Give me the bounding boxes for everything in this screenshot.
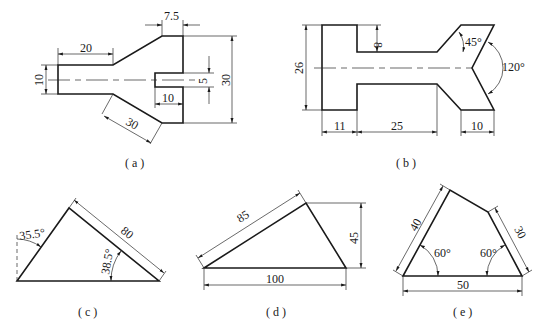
dim-a-slot-depth: 10 bbox=[162, 91, 174, 105]
engineering-drawing-sheet: 7.5 20 10 5 30 10 30 ( a ) bbox=[0, 0, 548, 335]
dim-b-chamfer-angle: 45° bbox=[465, 35, 482, 49]
dim-c-hypotenuse: 80 bbox=[118, 223, 136, 241]
dim-d-base: 100 bbox=[266, 272, 284, 286]
dim-a-slant-length: 30 bbox=[124, 114, 141, 132]
figure-c: 35.5° 80 38.5° ( c ) bbox=[17, 198, 166, 319]
dim-e-right-angle: 60° bbox=[480, 246, 497, 260]
caption-a: ( a ) bbox=[125, 156, 144, 170]
figure-a-outline bbox=[58, 36, 183, 123]
dim-e-right-side: 30 bbox=[511, 224, 529, 241]
dim-e-left-side: 40 bbox=[406, 216, 424, 233]
dim-b-vee-angle: 120° bbox=[502, 60, 525, 74]
dim-a-slot-height: 5 bbox=[196, 78, 210, 84]
dim-e-left-angle: 60° bbox=[434, 246, 451, 260]
caption-d: ( d ) bbox=[266, 305, 286, 319]
dim-b-notch-depth: 8 bbox=[371, 42, 385, 48]
dim-d-slant-side: 85 bbox=[234, 207, 252, 225]
caption-e: ( e ) bbox=[453, 305, 472, 319]
figure-a: 7.5 20 10 5 30 10 30 ( a ) bbox=[32, 9, 237, 170]
figure-d-outline bbox=[204, 203, 346, 268]
dim-a-left-length: 20 bbox=[80, 41, 92, 55]
figure-e: 40 30 60° 60° 50 ( e ) bbox=[393, 184, 532, 319]
dim-b-right-width: 10 bbox=[471, 119, 483, 133]
dim-e-base: 50 bbox=[457, 278, 469, 292]
dim-b-left-width: 11 bbox=[334, 119, 346, 133]
dim-a-overall-height: 30 bbox=[219, 74, 233, 86]
dim-a-top-width: 7.5 bbox=[164, 9, 179, 23]
dim-a-left-height: 10 bbox=[32, 74, 46, 86]
caption-b: ( b ) bbox=[396, 156, 416, 170]
dim-b-overall-height: 26 bbox=[292, 62, 306, 74]
figure-b: 26 8 45° 120° 11 25 10 ( b ) bbox=[292, 25, 525, 170]
figure-c-outline bbox=[17, 208, 159, 281]
dim-d-height: 45 bbox=[347, 232, 361, 244]
dim-c-inner-angle: 38.5° bbox=[98, 247, 116, 275]
figure-d: 85 45 100 ( d ) bbox=[196, 190, 366, 319]
figure-e-outline bbox=[403, 190, 522, 276]
caption-c: ( c ) bbox=[78, 305, 97, 319]
dim-c-left-angle: 35.5° bbox=[18, 225, 46, 242]
dim-b-neck-length: 25 bbox=[391, 119, 403, 133]
